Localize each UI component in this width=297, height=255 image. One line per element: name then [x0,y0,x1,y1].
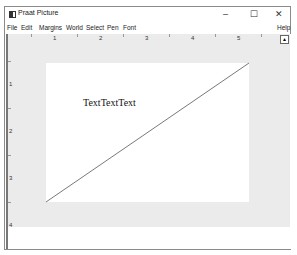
menu-edit[interactable]: Edit [21,24,32,31]
menu-help[interactable]: Help [277,24,290,31]
picture-canvas[interactable]: 1 2 3 4 5 1 2 3 4 TextTextText ▲ [6,34,291,249]
menu-font[interactable]: Font [123,24,136,31]
close-button[interactable]: ✕ [275,8,283,20]
minimize-button[interactable]: – [223,8,228,20]
gray-area: 1 2 3 4 5 1 2 3 4 TextTextText ▲ [8,34,290,227]
scroll-corner-button[interactable]: ▲ [280,35,289,44]
praat-app-icon [9,11,16,18]
window-title: Praat Picture [18,9,58,16]
title-bar: Praat Picture – ☐ ✕ [5,7,290,23]
menu-margins[interactable]: Margins [39,24,62,31]
menu-file[interactable]: File [7,24,17,31]
praat-picture-window: Praat Picture – ☐ ✕ File Edit Margins Wo… [4,6,291,250]
maximize-button[interactable]: ☐ [250,8,258,20]
menu-bar: File Edit Margins World Select Pen Font … [5,23,290,33]
menu-pen[interactable]: Pen [107,24,119,31]
menu-select[interactable]: Select [86,24,104,31]
diagonal-line [8,34,290,227]
menu-world[interactable]: World [66,24,83,31]
